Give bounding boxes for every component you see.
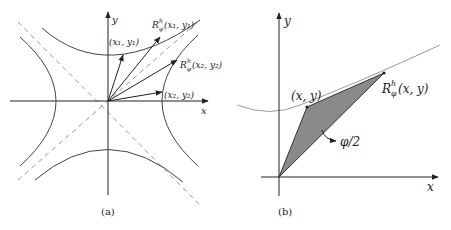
point2-label: (x₂, y₂): [164, 90, 195, 100]
y-axis-label: y: [111, 14, 118, 25]
area-label: φ/2: [340, 135, 360, 149]
caption-b: (b): [278, 206, 292, 217]
svg-text:h: h: [187, 57, 191, 64]
point-xy: [305, 105, 308, 108]
svg-text:(x₂, y₂): (x₂, y₂): [192, 60, 223, 70]
svg-text:R: R: [179, 60, 187, 70]
svg-text:(x₁, y₁): (x₁, y₁): [164, 20, 195, 30]
x-axis-label: x: [201, 105, 207, 116]
x-axis-label: x: [427, 180, 434, 194]
svg-text:(x, y): (x, y): [398, 82, 429, 96]
y-axis-label: y: [283, 14, 291, 28]
hyperbola-bottom: [35, 149, 183, 182]
caption-a: (a): [101, 206, 115, 217]
svg-text:h: h: [391, 79, 396, 88]
figure: y x (x₁, y₁) (x₂, y₂) R h φ (x₁, y₁) R h…: [0, 0, 451, 230]
point-label: (x, y): [291, 89, 322, 103]
panel-b: y x (x, y) R h φ (x, y) φ/2 (b): [237, 13, 440, 217]
svg-text:R: R: [151, 20, 159, 30]
rotated-point2-label: R h φ (x₂, y₂): [179, 57, 223, 73]
point-rotated: [382, 71, 385, 74]
svg-text:φ: φ: [391, 89, 397, 98]
svg-text:R: R: [381, 82, 391, 96]
svg-text:h: h: [159, 17, 163, 24]
point1-label: (x₁, y₁): [109, 37, 140, 47]
asymptote-1: [18, 22, 200, 205]
panel-a: y x (x₁, y₁) (x₂, y₂) R h φ (x₁, y₁) R h…: [10, 12, 223, 217]
rotated-point-label: R h φ (x, y): [381, 79, 429, 98]
